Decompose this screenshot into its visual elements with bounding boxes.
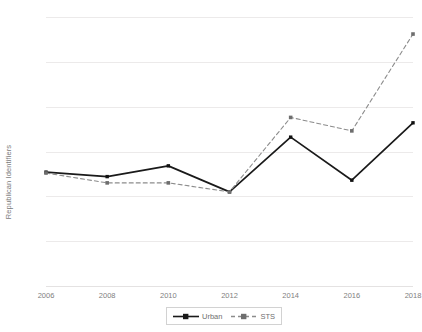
legend-swatch-sts — [231, 312, 257, 321]
legend-swatch-urban — [173, 312, 199, 321]
data-point-marker — [289, 135, 292, 138]
legend-label-sts: STS — [260, 312, 275, 321]
chart-legend: Urban STS — [166, 307, 282, 325]
gridline — [46, 286, 413, 287]
data-point-marker — [44, 171, 48, 175]
data-point-marker — [350, 178, 353, 181]
x-tick-label: 2016 — [332, 291, 372, 300]
data-point-marker — [167, 164, 170, 167]
x-tick-label: 2012 — [210, 291, 250, 300]
legend-label-urban: Urban — [202, 312, 222, 321]
data-point-marker — [167, 181, 171, 185]
series-urban — [44, 121, 414, 193]
plot-area: 70%65%60%55%50%45%40% 200620082010201220… — [46, 17, 413, 286]
x-tick-label: 2010 — [148, 291, 188, 300]
series-line — [46, 34, 413, 192]
x-tick-label: 2008 — [87, 291, 127, 300]
x-tick-label: 2018 — [393, 291, 422, 300]
data-point-marker — [228, 190, 232, 194]
data-point-marker — [105, 175, 108, 178]
x-tick-label: 2006 — [26, 291, 66, 300]
y-axis-title: Republican Identifiers — [0, 16, 16, 332]
legend-entry-sts: STS — [231, 312, 275, 321]
line-chart: Republican Identifiers 70%65%60%55%50%45… — [0, 0, 422, 332]
data-point-marker — [350, 129, 354, 133]
data-point-marker — [411, 121, 414, 124]
legend-entry-urban: Urban — [173, 312, 222, 321]
data-point-marker — [289, 116, 293, 120]
series-layer — [46, 17, 413, 286]
x-tick-label: 2014 — [271, 291, 311, 300]
data-point-marker — [411, 32, 415, 36]
series-sts — [44, 32, 415, 193]
data-point-marker — [105, 181, 109, 185]
